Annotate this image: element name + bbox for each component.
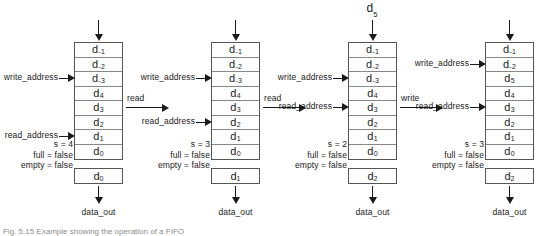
- transition-arrow-head: [162, 104, 169, 112]
- memory-cell: d3: [349, 101, 396, 116]
- size-status: s = 3: [432, 139, 484, 150]
- input-arrow-head: [95, 34, 103, 41]
- memory-stack: d-1d-2d-3d4d3d2d1d0: [211, 42, 260, 160]
- memory-cell: d3: [212, 101, 259, 116]
- memory-cell: d-2: [75, 58, 122, 73]
- memory-cell: d0: [486, 145, 533, 160]
- panel-2: d-1d-2d-3d4d3d2d1d0write_addressread_add…: [137, 0, 274, 236]
- transition-arrow-head: [299, 104, 306, 112]
- transition-label: write: [401, 94, 419, 103]
- memory-cell: d4: [212, 87, 259, 102]
- status-block: s = 2full = falseempty = false: [295, 139, 347, 171]
- data-out-label: data_out: [477, 208, 542, 217]
- output-arrow-head: [369, 197, 377, 204]
- empty-status: empty = false: [21, 160, 73, 171]
- memory-cell: d0: [349, 145, 396, 160]
- memory-cell: d-1: [486, 43, 533, 58]
- memory-cell: d1: [75, 130, 122, 145]
- fifo-operation-figure: d-1d-2d-3d4d3d2d1d0write_addressread_add…: [0, 0, 548, 236]
- write-address-label: write_address: [4, 73, 58, 82]
- output-arrow-head: [232, 197, 240, 204]
- transition-label: read: [127, 94, 144, 103]
- memory-cell: d1: [212, 130, 259, 145]
- transition-arrow-head: [436, 104, 443, 112]
- memory-cell: d2: [75, 116, 122, 131]
- input-arrow-line: [235, 20, 236, 35]
- status-block: s = 4full = falseempty = false: [21, 139, 73, 171]
- figure-stage: d-1d-2d-3d4d3d2d1d0write_addressread_add…: [0, 0, 548, 236]
- data-out-label: data_out: [340, 208, 405, 217]
- full-status: full = false: [158, 150, 210, 161]
- panel-4: d-1d-2d5d4d3d2d1d0write_addressread_addr…: [411, 0, 548, 236]
- transition-arrow-line: [400, 107, 438, 108]
- memory-cell: d4: [349, 87, 396, 102]
- size-status: s = 2: [295, 139, 347, 150]
- memory-cell: d2: [486, 116, 533, 131]
- write-address-label: write_address: [278, 73, 332, 82]
- memory-cell: d2: [349, 116, 396, 131]
- status-block: s = 3full = falseempty = false: [432, 139, 484, 171]
- memory-cell: d1: [349, 130, 396, 145]
- input-arrow-head: [369, 34, 377, 41]
- empty-status: empty = false: [295, 160, 347, 171]
- memory-cell: d2: [212, 116, 259, 131]
- read-address-arrow-head: [205, 118, 212, 126]
- read-address-label: read_address: [142, 117, 195, 126]
- read-address-arrow-head: [342, 103, 349, 111]
- write-address-arrow-head: [479, 60, 486, 68]
- transition-arrow-line: [263, 107, 301, 108]
- memory-cell: d4: [75, 87, 122, 102]
- input-arrow-line: [372, 20, 373, 35]
- memory-cell: d-1: [349, 43, 396, 58]
- data-out-label: data_out: [66, 208, 131, 217]
- memory-cell: d-2: [486, 58, 533, 73]
- memory-cell: d1: [486, 130, 533, 145]
- output-register: d0: [74, 168, 123, 184]
- transition-arrow-line: [126, 107, 164, 108]
- size-status: s = 4: [21, 139, 73, 150]
- memory-stack: d-1d-2d-3d4d3d2d1d0: [348, 42, 397, 160]
- memory-cell: d3: [75, 101, 122, 116]
- memory-cell: d-3: [212, 72, 259, 87]
- memory-cell: d-3: [75, 72, 122, 87]
- data-out-label: data_out: [203, 208, 268, 217]
- empty-status: empty = false: [432, 160, 484, 171]
- full-status: full = false: [295, 150, 347, 161]
- memory-stack: d-1d-2d-3d4d3d2d1d0: [74, 42, 123, 160]
- memory-cell: d-1: [75, 43, 122, 58]
- input-arrow-line: [509, 20, 510, 35]
- output-register: d1: [211, 168, 260, 184]
- memory-cell: d0: [212, 145, 259, 160]
- panel-3: d5d-1d-2d-3d4d3d2d1d0write_addressread_a…: [274, 0, 411, 236]
- memory-cell: d5: [486, 72, 533, 87]
- write-address-label: write_address: [141, 73, 195, 82]
- output-register: d2: [348, 168, 397, 184]
- empty-status: empty = false: [158, 160, 210, 171]
- output-arrow-head: [506, 197, 514, 204]
- write-address-arrow-head: [68, 74, 75, 82]
- output-register: d2: [485, 168, 534, 184]
- write-address-arrow-head: [205, 74, 212, 82]
- output-arrow-head: [95, 197, 103, 204]
- transition-label: read: [264, 94, 281, 103]
- full-status: full = false: [432, 150, 484, 161]
- memory-cell: d3: [486, 101, 533, 116]
- status-block: s = 3full = falseempty = false: [158, 139, 210, 171]
- full-status: full = false: [21, 150, 73, 161]
- memory-cell: d-3: [349, 72, 396, 87]
- figure-caption: Fig. 5.15 Example showing the operation …: [3, 227, 184, 236]
- size-status: s = 3: [158, 139, 210, 150]
- memory-cell: d0: [75, 145, 122, 160]
- input-arrow-line: [98, 20, 99, 35]
- input-arrow-head: [506, 34, 514, 41]
- write-address-arrow-head: [342, 74, 349, 82]
- input-arrow-head: [232, 34, 240, 41]
- memory-cell: d-1: [212, 43, 259, 58]
- memory-cell: d-2: [349, 58, 396, 73]
- panel-1: d-1d-2d-3d4d3d2d1d0write_addressread_add…: [0, 0, 137, 236]
- memory-cell: d-2: [212, 58, 259, 73]
- read-address-arrow-head: [479, 103, 486, 111]
- memory-cell: d4: [486, 87, 533, 102]
- write-address-label: write_address: [415, 59, 469, 68]
- input-data-label: d5: [356, 2, 388, 17]
